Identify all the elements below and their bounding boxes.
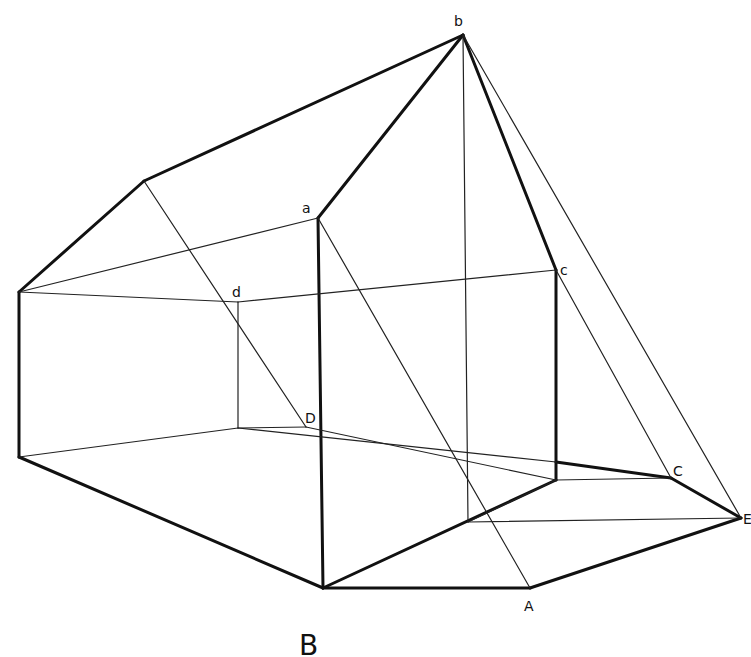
label-c: c: [560, 262, 568, 278]
c-bottom-to-C: [556, 478, 671, 480]
thick-edges: [19, 35, 741, 588]
edge-to-C: [556, 462, 671, 478]
label-D: D: [305, 410, 316, 426]
front-vertical-edge-a: [318, 218, 323, 588]
edge-A-E: [530, 518, 741, 588]
label-A: A: [524, 598, 534, 614]
d-bottom-to-c-upper: [238, 428, 556, 462]
label-E: E: [743, 511, 751, 527]
base-left-to-d-bottom: [19, 428, 238, 457]
edge-C-E: [671, 478, 741, 518]
D-to-c-bottom: [306, 427, 556, 480]
left-to-d: [19, 292, 238, 302]
roof-edge-b-c: [463, 35, 556, 270]
label-C: C: [673, 463, 683, 479]
ridge-to-D: [144, 181, 306, 427]
label-a: a: [302, 200, 311, 216]
d-bottom-to-D: [238, 427, 306, 428]
b-to-E: [463, 35, 741, 518]
figure-caption: B: [299, 629, 318, 657]
ridge-top-edge: [144, 35, 463, 181]
label-d: d: [232, 284, 241, 300]
label-b: b: [454, 13, 463, 29]
inner-to-c-bottom: [468, 480, 556, 522]
c-to-C: [556, 270, 671, 478]
inner-to-E: [468, 518, 741, 522]
eave-left-to-a: [19, 218, 318, 292]
roof-left-edge: [19, 181, 144, 292]
a-to-A: [318, 218, 530, 588]
base-left-edge: [19, 457, 323, 588]
d-to-c: [238, 270, 556, 302]
perspective-diagram: b a d c D C E A B: [0, 0, 751, 657]
roof-front-edge-b-a: [318, 35, 463, 218]
